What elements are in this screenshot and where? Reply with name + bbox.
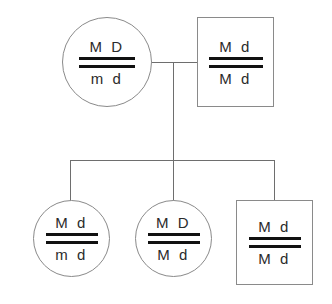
genotype-child-2: M D M d	[148, 215, 200, 262]
chromatid-bar-bottom	[209, 65, 263, 68]
genotype-child-1: M d m d	[46, 215, 98, 262]
genotype-mother: M D m d	[79, 39, 135, 86]
sibship-stem-child-3	[274, 160, 275, 200]
chromatid-bar-bottom	[79, 65, 135, 68]
allele-row-top: M d	[219, 39, 252, 54]
child-1-circle[interactable]: M d m d	[33, 200, 110, 277]
mating-line	[152, 62, 197, 63]
chromatid-bar-top	[249, 237, 301, 240]
chromatid-bar-bottom	[46, 241, 98, 244]
chromatid-bar-top	[79, 57, 135, 60]
child-2-circle[interactable]: M D M d	[135, 200, 212, 277]
allele-row-top: M D	[90, 39, 125, 54]
child-3-square[interactable]: M d M d	[236, 200, 313, 285]
allele-row-top: M d	[55, 215, 88, 230]
pedigree-diagram: M D m d M d M d M d m d	[0, 0, 332, 304]
allele-row-bottom: M d	[258, 251, 291, 266]
chromatid-bar-bottom	[249, 245, 301, 248]
chromatid-bar-top	[209, 57, 263, 60]
chromatid-bar-bottom	[148, 241, 200, 244]
chromatid-bar-top	[46, 233, 98, 236]
parent-mother-circle[interactable]: M D m d	[62, 17, 152, 107]
genotype-father: M d M d	[209, 39, 263, 86]
sibship-stem-child-1	[70, 160, 71, 202]
allele-row-bottom: M d	[157, 247, 190, 262]
descent-line	[173, 62, 174, 161]
chromatid-bar-top	[148, 233, 200, 236]
genotype-child-3: M d M d	[249, 219, 301, 266]
allele-row-bottom: M d	[219, 71, 252, 86]
allele-row-top: M d	[258, 219, 291, 234]
parent-father-square[interactable]: M d M d	[197, 17, 274, 107]
allele-row-bottom: m d	[91, 71, 124, 86]
allele-row-bottom: m d	[55, 247, 88, 262]
sibship-stem-child-2	[173, 160, 174, 202]
allele-row-top: M D	[156, 215, 191, 230]
